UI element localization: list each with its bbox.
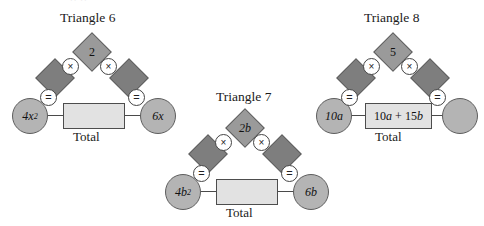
triangle-8-total-value: 10a + 15b [374, 109, 423, 124]
triangle-7-equals-left-icon: = [193, 165, 210, 182]
triangle-7-right-circle[interactable]: 6b [293, 174, 329, 210]
triangle-7-total-label: Total [226, 205, 253, 221]
triangle-8-multiply-right-icon: × [401, 58, 418, 75]
triangle-7-left-circle-exponent: 2 [187, 188, 191, 197]
triangle-7-total-box[interactable] [216, 179, 278, 205]
triangle-6-top-diamond-label: 2 [89, 46, 95, 58]
triangle-8-right-circle[interactable] [442, 98, 478, 134]
triangle-6-equals-left-icon: = [40, 89, 57, 106]
triangle-6-left-circle-label: 4x [22, 109, 33, 124]
triangle-6-left-circle-exponent: 2 [34, 112, 38, 121]
triangle-6-multiply-right-icon: × [100, 58, 117, 75]
triangle-7-equals-right-icon: = [281, 165, 298, 182]
triangle-7-multiply-left-icon: × [215, 134, 232, 151]
triangle-6-total-label: Total [73, 129, 100, 145]
triangle-6-title: Triangle 6 [60, 10, 115, 26]
triangle-6-multiply-left-icon: × [62, 58, 79, 75]
triangle-8-total-label: Total [375, 129, 402, 145]
triangle-8-total-box[interactable]: 10a + 15b [365, 103, 432, 129]
worksheet-canvas: ·· ·· Triangle 6 2 × × = = 4x2 6x [0, 0, 484, 226]
triangle-6-right-circle[interactable]: 6x [140, 98, 176, 134]
triangle-8-left-circle-label: 10a [325, 109, 343, 124]
triangle-6-connector-right [122, 115, 142, 116]
triangle-8-equals-left-icon: = [341, 89, 358, 106]
triangle-6-right-circle-label: 6x [152, 109, 163, 124]
triangle-8-top-diamond-label: 5 [390, 46, 396, 58]
triangle-7-top-diamond-label: 2b [239, 122, 251, 134]
triangle-8-title: Triangle 8 [364, 10, 419, 26]
faint-header-fragment: ·· ·· [70, 0, 88, 5]
triangle-6-total-box[interactable] [63, 103, 125, 129]
triangle-7-left-circle-label: 4b [175, 185, 187, 200]
triangle-8-multiply-left-icon: × [363, 58, 380, 75]
triangle-6-equals-right-icon: = [128, 89, 145, 106]
triangle-7-multiply-right-icon: × [253, 134, 270, 151]
triangle-7-right-circle-label: 6b [305, 185, 317, 200]
triangle-7-connector-right [275, 191, 295, 192]
triangle-8-equals-right-icon: = [429, 89, 446, 106]
triangle-7-title: Triangle 7 [216, 89, 271, 105]
